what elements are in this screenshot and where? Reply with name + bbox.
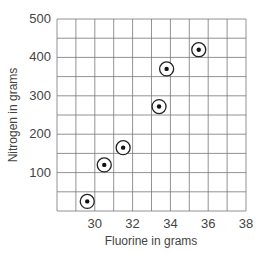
x-axis-label: Fluorine in grams bbox=[105, 234, 198, 248]
x-axis-ticks: 3032343638 bbox=[88, 216, 254, 231]
y-tick-label: 200 bbox=[29, 126, 51, 141]
data-point bbox=[116, 141, 130, 155]
x-tick-label: 32 bbox=[125, 216, 139, 231]
y-axis-label: Nitrogen in grams bbox=[6, 68, 20, 163]
y-tick-label: 500 bbox=[29, 11, 51, 26]
data-point bbox=[160, 62, 174, 76]
grid bbox=[57, 19, 246, 211]
data-points bbox=[80, 43, 206, 209]
data-point bbox=[152, 100, 166, 114]
data-point bbox=[192, 43, 206, 57]
x-tick-label: 36 bbox=[201, 216, 215, 231]
scatter-chart: 100200300400500 3032343638 Fluorine in g… bbox=[0, 0, 265, 253]
y-axis-ticks: 100200300400500 bbox=[29, 11, 51, 180]
data-point bbox=[80, 194, 94, 208]
x-tick-label: 38 bbox=[239, 216, 253, 231]
x-tick-label: 30 bbox=[88, 216, 102, 231]
y-tick-label: 400 bbox=[29, 49, 51, 64]
data-point bbox=[97, 158, 111, 172]
y-tick-label: 300 bbox=[29, 88, 51, 103]
y-tick-label: 100 bbox=[29, 165, 51, 180]
x-tick-label: 34 bbox=[163, 216, 177, 231]
